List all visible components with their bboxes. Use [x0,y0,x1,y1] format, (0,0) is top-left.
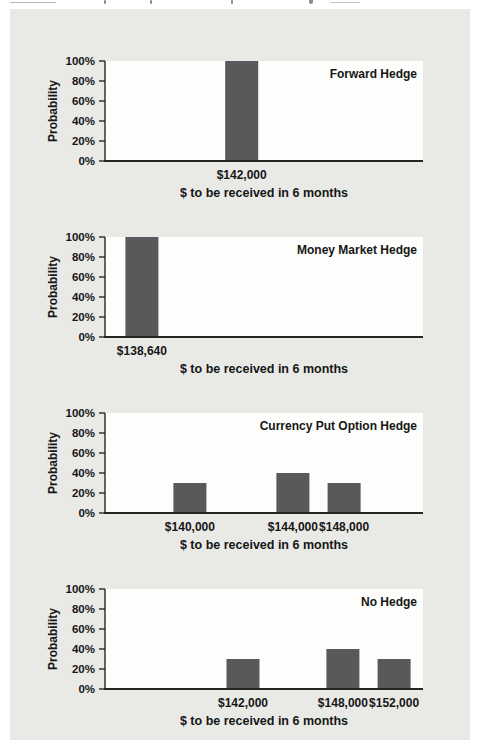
y-tick-label: 40% [72,467,95,479]
chart-forward-hedge: $142,0000%20%40%60%80%100%ProbabilityFor… [19,51,461,209]
y-tick-label: 60% [72,271,95,283]
y-tick-label: 0% [78,683,95,695]
x-tick-label: $138,640 [117,344,167,358]
text-fragment [309,0,313,4]
y-tick-label: 0% [78,155,95,167]
chart-money-market-hedge: $138,6400%20%40%60%80%100%ProbabilityMon… [19,227,461,385]
y-axis-title: Probability [46,432,60,494]
x-axis-title: $ to be received in 6 months [180,186,348,200]
x-axis-title: $ to be received in 6 months [180,362,348,376]
bar-142-000 [225,61,258,161]
text-fragment [104,0,106,4]
bar-148-000 [328,483,361,513]
y-tick-label: 60% [72,623,95,635]
y-tick-label: 80% [72,427,95,439]
y-tick-label: 20% [72,487,95,499]
y-tick-label: 80% [72,251,95,263]
cropped-text-remnant [0,0,480,5]
x-axis-title: $ to be received in 6 months [180,538,348,552]
text-fragment [231,0,233,4]
x-tick-label: $148,000 [319,520,369,534]
chart-title: No Hedge [361,595,417,609]
bar-140-000 [173,483,206,513]
y-tick-label: 80% [72,603,95,615]
y-tick-label: 0% [78,507,95,519]
x-tick-label: $142,000 [217,168,267,182]
x-tick-label: $142,000 [218,696,268,710]
y-tick-label: 40% [72,115,95,127]
y-tick-label: 100% [66,407,95,419]
y-tick-label: 100% [66,231,95,243]
text-fragment [10,2,56,3]
bar-142-000 [227,659,260,689]
text-fragment [330,2,360,3]
bar-144-000 [276,473,309,513]
chart-no-hedge: $142,000$148,000$152,0000%20%40%60%80%10… [19,579,461,737]
x-axis-title: $ to be received in 6 months [180,714,348,728]
chart-block-forward-hedge: $142,0000%20%40%60%80%100%ProbabilityFor… [19,51,461,209]
y-tick-label: 40% [72,643,95,655]
y-tick-label: 40% [72,291,95,303]
chart-block-money-market-hedge: $138,6400%20%40%60%80%100%ProbabilityMon… [19,227,461,385]
chart-title: Money Market Hedge [297,243,417,257]
y-tick-label: 100% [66,55,95,67]
x-tick-label: $148,000 [318,696,368,710]
y-axis-title: Probability [46,80,60,142]
figure-panel: $142,0000%20%40%60%80%100%ProbabilityFor… [10,9,470,740]
x-tick-label: $140,000 [165,520,215,534]
y-axis-title: Probability [46,256,60,318]
bar-138-640 [125,237,158,337]
chart-block-currency-put-option-hedge: $140,000$144,000$148,0000%20%40%60%80%10… [19,403,461,561]
chart-title: Forward Hedge [330,67,418,81]
y-tick-label: 60% [72,95,95,107]
y-tick-label: 100% [66,583,95,595]
x-tick-label: $144,000 [268,520,318,534]
text-fragment [150,0,152,4]
chart-currency-put-option-hedge: $140,000$144,000$148,0000%20%40%60%80%10… [19,403,461,561]
chart-block-no-hedge: $142,000$148,000$152,0000%20%40%60%80%10… [19,579,461,737]
y-tick-label: 80% [72,75,95,87]
x-tick-label: $152,000 [369,696,419,710]
y-tick-label: 60% [72,447,95,459]
charts-container: $142,0000%20%40%60%80%100%ProbabilityFor… [19,51,461,737]
bar-152-000 [378,659,411,689]
y-axis-title: Probability [46,608,60,670]
y-tick-label: 20% [72,311,95,323]
y-tick-label: 0% [78,331,95,343]
y-tick-label: 20% [72,663,95,675]
y-tick-label: 20% [72,135,95,147]
chart-title: Currency Put Option Hedge [260,419,418,433]
bar-148-000 [326,649,359,689]
